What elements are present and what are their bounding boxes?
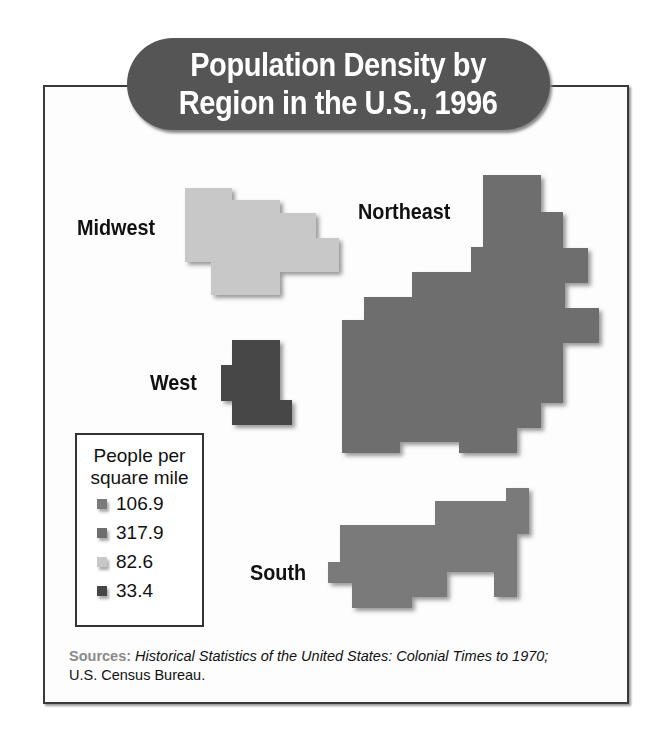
legend-swatch	[97, 528, 107, 538]
label-midwest: Midwest	[77, 215, 155, 241]
legend-item-midwest: 82.6	[97, 547, 202, 576]
label-northeast: Northeast	[358, 199, 450, 225]
region-south	[328, 488, 529, 608]
legend-item-south: 106.9	[97, 489, 202, 518]
sources-title: Historical Statistics of the United Stat…	[135, 648, 548, 664]
legend-title-line-1: People per	[77, 445, 202, 467]
legend-item-northeast: 317.9	[97, 518, 202, 547]
legend: People per square mile 106.9 317.9 82.6 …	[75, 433, 204, 627]
region-map	[0, 0, 666, 747]
region-west	[221, 340, 292, 425]
legend-swatch	[97, 586, 107, 596]
legend-swatch	[97, 499, 107, 509]
legend-title-line-2: square mile	[77, 467, 202, 489]
label-west: West	[150, 370, 197, 396]
legend-value: 106.9	[116, 493, 164, 515]
sources-note: Sources: Historical Statistics of the Un…	[69, 647, 548, 685]
region-midwest	[185, 188, 339, 295]
legend-item-west: 33.4	[97, 576, 202, 605]
legend-title: People per square mile	[77, 445, 202, 489]
legend-value: 82.6	[116, 551, 153, 573]
legend-swatch	[97, 557, 107, 567]
label-south: South	[250, 560, 306, 586]
legend-value: 317.9	[116, 522, 164, 544]
sources-label: Sources:	[69, 648, 131, 664]
sources-rest: U.S. Census Bureau.	[69, 667, 205, 683]
legend-value: 33.4	[116, 580, 153, 602]
